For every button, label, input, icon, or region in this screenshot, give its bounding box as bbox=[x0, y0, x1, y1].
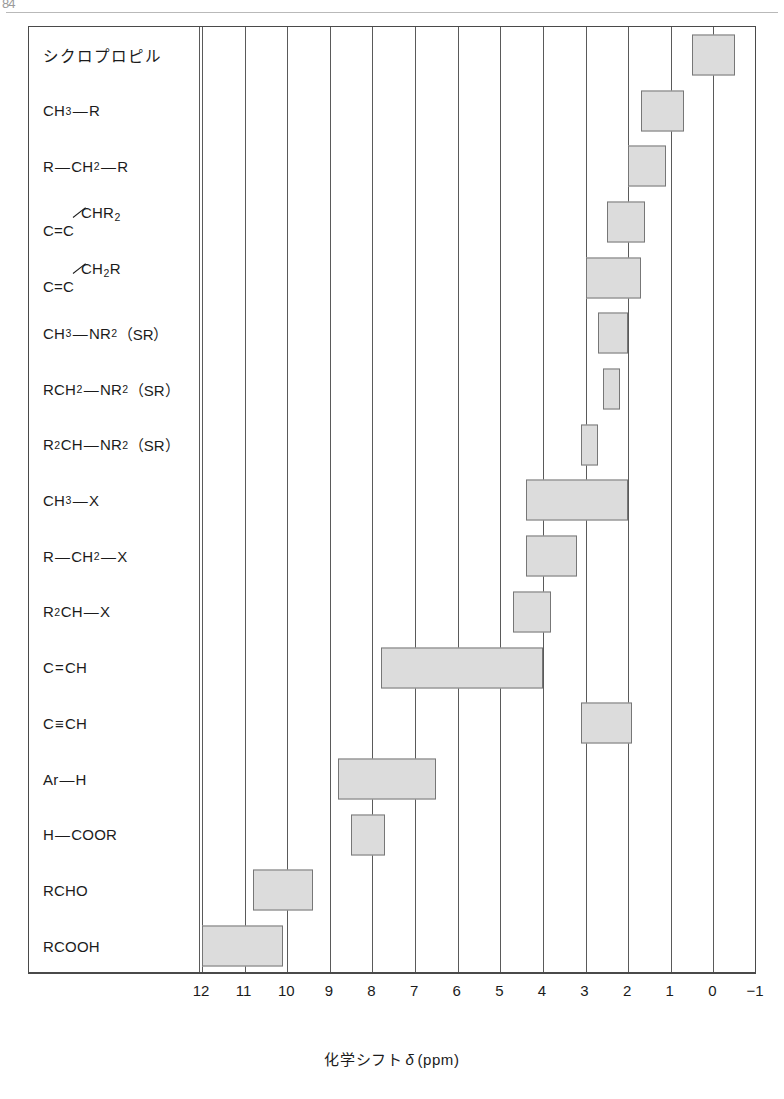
formula-part: R bbox=[43, 548, 54, 565]
formula-part: — bbox=[100, 548, 117, 565]
formula-part: NR bbox=[100, 381, 122, 398]
formula-branch: CHR2 bbox=[81, 204, 121, 223]
formula-part: — bbox=[100, 158, 117, 175]
chart-row-h-coor: H—COOR bbox=[29, 807, 755, 863]
chart-row-r2ch-x: R2CH—X bbox=[29, 584, 755, 640]
formula-part: R bbox=[89, 102, 100, 119]
x-axis-tick-labels: 1211109876543210−1 bbox=[28, 974, 756, 1008]
formula-part: COOR bbox=[71, 826, 117, 843]
range-bar-r-ch2-x bbox=[526, 536, 577, 577]
tick-label-7: 7 bbox=[410, 982, 418, 999]
scan-artifact: 84 bbox=[2, 0, 14, 11]
chart-row-vinyl-ch2r: C=CCH2R bbox=[29, 250, 755, 306]
range-bar-h-coor bbox=[351, 814, 385, 855]
tick-label-3: 3 bbox=[580, 982, 588, 999]
formula-part: 2 bbox=[54, 439, 61, 451]
formula-part: CHR bbox=[81, 204, 114, 221]
formula-part: 2 bbox=[122, 439, 129, 451]
chart-row-cyclopropyl: シクロプロピル bbox=[29, 27, 755, 83]
axis-caption-delta: δ bbox=[402, 1051, 417, 1068]
chart-row-rch2-nr2: RCH2—NR2（SR） bbox=[29, 361, 755, 417]
chart-row-ch3-x: CH3—X bbox=[29, 473, 755, 529]
row-label-rch2-nr2: RCH2—NR2（SR） bbox=[43, 361, 180, 417]
tick-label-neg1: −1 bbox=[746, 982, 763, 999]
chart-row-ar-h: Ar—H bbox=[29, 751, 755, 807]
range-bar-r-ch2-r bbox=[628, 146, 666, 187]
formula-part: CH bbox=[43, 325, 65, 342]
chart-plot-frame: シクロプロピルCH3—RR—CH2—RC=CCHR2C=CCH2RCH3—NR2… bbox=[28, 26, 756, 973]
range-bar-vinyl-chr2 bbox=[607, 201, 645, 242]
formula-part: 2 bbox=[114, 211, 121, 223]
formula-base: C=C bbox=[43, 222, 74, 239]
formula-base: C=C bbox=[43, 278, 74, 295]
tick-label-8: 8 bbox=[367, 982, 375, 999]
chart-row-alkyne-ch: C≡CH bbox=[29, 695, 755, 751]
row-label-alkene-ch: C=CH bbox=[43, 640, 87, 696]
formula-part: （SR） bbox=[118, 323, 169, 344]
formula-part: RCH bbox=[43, 381, 76, 398]
formula-part: X bbox=[117, 548, 127, 565]
range-bar-ch3-r bbox=[641, 90, 684, 131]
formula-part: R bbox=[117, 158, 128, 175]
formula-part: = bbox=[54, 659, 65, 676]
formula-part: RCOOH bbox=[43, 938, 100, 955]
range-bar-r2ch-x bbox=[513, 591, 551, 632]
formula-part: CH bbox=[61, 603, 83, 620]
range-bar-r2ch-nr2 bbox=[581, 424, 598, 465]
tick-label-11: 11 bbox=[236, 982, 252, 999]
range-bar-rcooh bbox=[202, 926, 283, 967]
formula-part: 2 bbox=[122, 383, 129, 395]
chart-row-ch3-nr2: CH3—NR2（SR） bbox=[29, 306, 755, 362]
axis-caption-unit: (ppm) bbox=[417, 1051, 459, 1068]
formula-part: H bbox=[76, 771, 87, 788]
row-label-ch3-r: CH3—R bbox=[43, 83, 100, 139]
row-label-rcooh: RCOOH bbox=[43, 918, 100, 974]
formula-part: 3 bbox=[65, 494, 72, 506]
chart-row-r2ch-nr2: R2CH—NR2（SR） bbox=[29, 417, 755, 473]
formula-part: — bbox=[72, 492, 89, 509]
formula-part: CH bbox=[43, 492, 65, 509]
tick-label-5: 5 bbox=[495, 982, 503, 999]
row-label-ar-h: Ar—H bbox=[43, 751, 87, 807]
formula-part: C bbox=[43, 659, 54, 676]
formula-part: — bbox=[83, 436, 100, 453]
formula-part: CH bbox=[81, 260, 103, 277]
tick-label-9: 9 bbox=[325, 982, 333, 999]
formula-part: R bbox=[43, 436, 54, 453]
formula-part: CH bbox=[65, 715, 87, 732]
formula-part: 2 bbox=[76, 383, 83, 395]
chart-row-rcho: RCHO bbox=[29, 863, 755, 919]
formula-part: （SR） bbox=[129, 379, 180, 400]
row-label-r-ch2-r: R—CH2—R bbox=[43, 138, 128, 194]
formula-part: CH bbox=[65, 659, 87, 676]
formula-part: — bbox=[54, 548, 71, 565]
tick-label-10: 10 bbox=[278, 982, 295, 999]
range-bar-rch2-nr2 bbox=[603, 369, 620, 410]
row-label-h-coor: H—COOR bbox=[43, 807, 117, 863]
row-label-alkyne-ch: C≡CH bbox=[43, 695, 87, 751]
formula-part: X bbox=[89, 492, 99, 509]
formula-part: 3 bbox=[65, 327, 72, 339]
row-label-cyclopropyl: シクロプロピル bbox=[43, 27, 162, 83]
formula-part: R bbox=[43, 158, 54, 175]
formula-part: — bbox=[83, 603, 100, 620]
formula-part: （SR） bbox=[129, 434, 180, 455]
formula-part: 2 bbox=[111, 327, 118, 339]
formula-part: — bbox=[54, 158, 71, 175]
range-bar-ch3-nr2 bbox=[598, 313, 628, 354]
formula-part: — bbox=[72, 325, 89, 342]
formula-part: H bbox=[43, 826, 54, 843]
row-label-r2ch-x: R2CH—X bbox=[43, 584, 110, 640]
tick-label-4: 4 bbox=[538, 982, 546, 999]
formula-part: RCHO bbox=[43, 882, 88, 899]
tick-label-6: 6 bbox=[453, 982, 461, 999]
chart-row-ch3-r: CH3—R bbox=[29, 83, 755, 139]
axis-caption-text: 化学シフト bbox=[324, 1051, 402, 1068]
chart-row-r-ch2-r: R—CH2—R bbox=[29, 138, 755, 194]
chart-row-rcooh: RCOOH bbox=[29, 918, 755, 974]
formula-part: — bbox=[58, 771, 75, 788]
formula-part: 2 bbox=[93, 550, 100, 562]
range-bar-cyclopropyl bbox=[692, 34, 735, 75]
formula-part: ≡ bbox=[54, 715, 65, 732]
formula-part: NR bbox=[100, 436, 122, 453]
